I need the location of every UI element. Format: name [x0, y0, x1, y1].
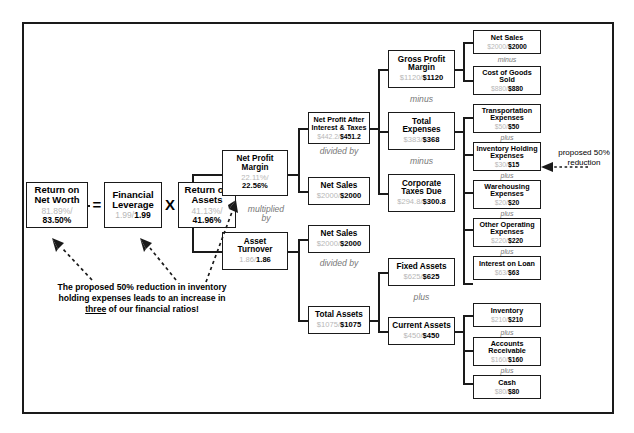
connector: [192, 251, 222, 253]
node-transportation-expenses[interactable]: Transportation Expenses $50/$50: [473, 104, 541, 133]
node-cost-of-goods-sold[interactable]: Cost of Goods Sold $880/$880: [473, 66, 541, 95]
node-corporate-taxes-due[interactable]: Corporate Taxes Due $294.8/$300.8: [388, 174, 455, 212]
node-cash[interactable]: Cash $80/$80: [473, 375, 541, 399]
node-title: Net Profit Margin: [237, 155, 274, 173]
old-value: $383: [404, 135, 421, 144]
node-inventory-holding-expenses[interactable]: Inventory Holding Expenses $30/$15: [473, 142, 541, 171]
connector: [378, 131, 388, 133]
node-values: $2000/$2000: [487, 43, 527, 50]
node-values: $442.2/$451.2: [317, 133, 360, 140]
connector: [288, 251, 298, 253]
node-title: Gross Profit Margin: [398, 56, 445, 74]
connective-plus-ooe: plus: [473, 210, 541, 218]
node-accounts-receivable[interactable]: Accounts Receivable $160/$160: [473, 337, 541, 366]
node-values: 81.89%/ 83.50%: [41, 207, 72, 225]
new-value: 83.50%: [43, 215, 72, 225]
node-title: Total Expenses: [402, 118, 440, 136]
connector: [298, 191, 308, 193]
connector: [378, 331, 388, 333]
connective-plus-ar: plus: [473, 329, 541, 337]
node-current-assets[interactable]: Current Assets $450/$450: [388, 317, 455, 345]
new-value: $160: [508, 356, 523, 363]
node-values: $2000/$2000: [317, 240, 361, 248]
node-gross-profit-margin[interactable]: Gross Profit Margin $1120/$1120: [388, 50, 455, 88]
connective-plus-ihe: plus: [473, 134, 541, 142]
node-title: Warehousing Expenses: [484, 183, 529, 199]
old-value: $294.8: [397, 197, 420, 206]
node-financial-leverage[interactable]: Financial Leverage 1.99/1.99: [104, 182, 162, 228]
node-total-assets[interactable]: Total Assets $1075/$1075: [308, 306, 370, 334]
new-value: $880: [508, 85, 523, 92]
connector: [463, 315, 473, 317]
node-title: Transportation Expenses: [482, 107, 532, 123]
caption-line-3-post: of our financial ratios!: [106, 304, 199, 314]
node-warehousing-expenses[interactable]: Warehousing Expenses $20/$20: [473, 180, 541, 209]
node-other-operating-expenses[interactable]: Other Operating Expenses $220/$220: [473, 218, 541, 247]
node-net-sales-gpm[interactable]: Net Sales $2000/$2000: [473, 30, 541, 54]
equals-operator: =: [90, 196, 104, 213]
old-value: $160: [491, 356, 506, 363]
caption-underlined-word: three: [85, 304, 106, 314]
connector: [298, 128, 308, 130]
node-values: $1120/$1120: [400, 74, 443, 82]
node-net-profit-margin[interactable]: Net Profit Margin 22.11%/ 22.56%: [222, 150, 288, 196]
new-value: $2000: [340, 239, 361, 248]
node-title: Net Sales: [321, 182, 358, 191]
connector: [463, 80, 473, 82]
node-values: 1.86/1.86: [239, 256, 271, 264]
connector: [298, 239, 300, 321]
new-value: $80: [508, 388, 519, 395]
old-value: 1.86: [239, 255, 254, 264]
connector: [463, 192, 473, 194]
connective-plus-wh: plus: [473, 172, 541, 180]
old-value: $442.2: [317, 133, 338, 140]
connective-multiplied-by: multiplied by: [236, 205, 296, 224]
old-value: 1.99: [115, 210, 132, 220]
connector: [455, 331, 463, 333]
node-title: Interest on Loan: [479, 260, 535, 268]
connective-divided-by-npm: divided by: [308, 147, 370, 156]
connective-minus-gpm: minus: [388, 95, 455, 104]
node-title: Cost of Goods Sold: [482, 69, 532, 85]
node-fixed-assets[interactable]: Fixed Assets $625/$625: [388, 258, 455, 286]
old-value: $2000: [487, 43, 506, 50]
node-values: 22.11%/ 22.56%: [241, 174, 268, 190]
node-title: Fixed Assets: [396, 263, 446, 272]
connector: [370, 320, 378, 322]
connective-divided-by-at: divided by: [308, 259, 370, 268]
old-value: $63: [495, 269, 506, 276]
node-net-profit-after-interest-taxes[interactable]: Net Profit After Interest & Taxes $442.2…: [308, 112, 370, 144]
new-value: $20: [508, 199, 519, 206]
node-total-expenses[interactable]: Total Expenses $383/$368: [388, 112, 455, 150]
node-title: Current Assets: [392, 322, 450, 331]
node-title: Inventory Holding Expenses: [476, 145, 537, 161]
node-values: $63/$63: [495, 269, 520, 276]
connector: [370, 128, 378, 130]
node-net-sales-asset-turnover[interactable]: Net Sales $2000/$2000: [308, 225, 370, 253]
connector: [463, 42, 465, 82]
old-value: $20: [495, 199, 506, 206]
node-net-sales-npm[interactable]: Net Sales $2000/$2000: [308, 177, 370, 205]
connector: [378, 272, 388, 274]
node-values: $220/$220: [491, 237, 523, 244]
node-title: Other Operating Expenses: [479, 221, 534, 237]
old-value: $1120: [400, 73, 421, 82]
node-values: $294.8/$300.8: [397, 198, 446, 206]
connective-plus-assets: plus: [388, 293, 455, 302]
new-value: $450: [423, 331, 440, 340]
node-return-on-net-worth[interactable]: Return on Net Worth 81.89%/ 83.50%: [26, 182, 88, 228]
node-asset-turnover[interactable]: Asset Turnover 1.86/1.86: [222, 232, 288, 270]
old-value: $2000: [317, 191, 338, 200]
old-value: $2000: [317, 239, 338, 248]
node-title: Asset Turnover: [238, 238, 273, 256]
node-inventory[interactable]: Inventory $210/$210: [473, 303, 541, 327]
node-values: $20/$20: [495, 199, 520, 206]
connector: [463, 383, 473, 385]
new-value: $1075: [340, 320, 361, 329]
new-value: $451.2: [340, 133, 361, 140]
new-value: $220: [508, 237, 523, 244]
annotation-caption: The proposed 50% reduction in inventory …: [36, 282, 248, 316]
connector: [463, 117, 473, 119]
node-values: $880/$880: [491, 85, 523, 92]
node-interest-on-loan[interactable]: Interest on Loan $63/$63: [473, 256, 541, 280]
